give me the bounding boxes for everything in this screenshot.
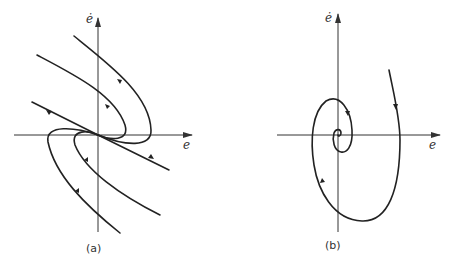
direction-arrow-icon	[117, 79, 122, 84]
y-axis-label: ė	[325, 12, 332, 24]
x-axis-label: e	[183, 139, 190, 151]
panel-a-plot	[0, 0, 228, 261]
direction-arrow-icon	[148, 154, 154, 159]
x-axis-label: e	[429, 139, 436, 151]
trajectory-1	[74, 36, 151, 143]
panel-a-node-portrait: ė e (a)	[0, 0, 228, 261]
panel-caption: (b)	[325, 240, 341, 251]
y-axis-label: ė	[86, 13, 93, 25]
direction-arrow-icon	[320, 178, 325, 183]
panel-b-plot	[228, 0, 456, 261]
panel-b-focus-portrait: ė e (b)	[228, 0, 456, 261]
trajectory-5	[48, 129, 120, 233]
direction-arrow-icon	[105, 104, 110, 109]
trajectory-3	[32, 102, 169, 170]
panel-caption: (a)	[86, 243, 101, 254]
spiral-trajectory	[312, 70, 400, 221]
